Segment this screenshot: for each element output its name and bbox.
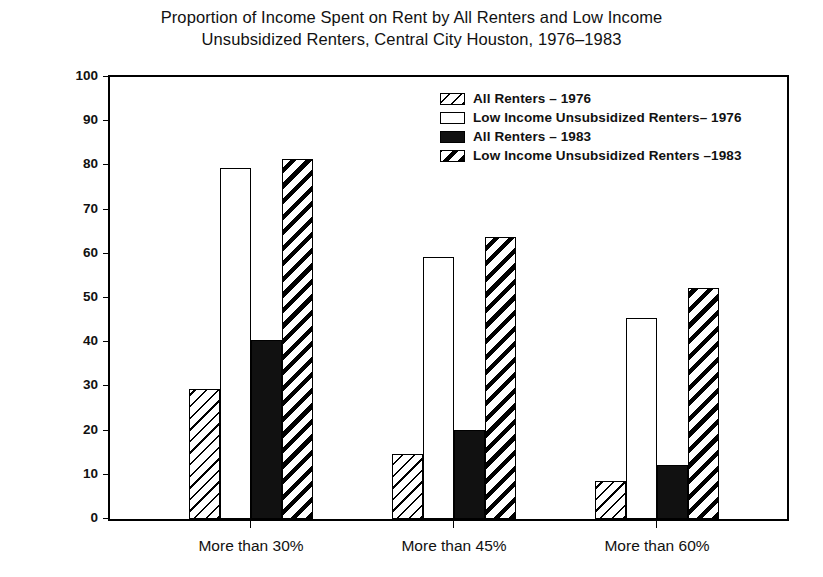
y-tick-mark	[103, 385, 110, 386]
y-tick-mark	[103, 430, 110, 431]
legend-item: All Renters – 1983	[440, 128, 742, 145]
bar	[282, 159, 313, 519]
bar	[251, 340, 282, 519]
legend-item: Low Income Unsubsidized Renters –1983	[440, 147, 742, 164]
x-tick-mark	[250, 519, 251, 528]
y-tick-label: 40	[83, 333, 98, 348]
y-tick-label: 10	[83, 466, 98, 481]
bar	[485, 237, 516, 519]
bar	[657, 465, 688, 519]
legend-label: All Renters – 1983	[473, 129, 591, 144]
y-tick-mark	[103, 253, 110, 254]
bar	[595, 481, 626, 519]
bar	[392, 454, 423, 519]
bar	[688, 288, 719, 519]
legend-swatch-icon	[440, 131, 465, 143]
y-tick-mark	[103, 209, 110, 210]
y-tick-mark	[103, 474, 110, 475]
chart-figure: Proportion of Income Spent on Rent by Al…	[0, 0, 823, 577]
plot-area: 0102030405060708090100 More than 30%More…	[108, 75, 789, 521]
y-tick-label: 100	[75, 68, 98, 83]
y-tick-label: 60	[83, 245, 98, 260]
y-tick-mark	[103, 341, 110, 342]
y-tick-mark	[103, 164, 110, 165]
y-tick-label: 90	[83, 112, 98, 127]
y-tick-mark	[103, 518, 110, 519]
y-tick-label: 80	[83, 156, 98, 171]
legend-item: Low Income Unsubsidized Renters– 1976	[440, 109, 742, 126]
bar	[189, 389, 220, 519]
legend-label: Low Income Unsubsidized Renters– 1976	[473, 110, 742, 125]
bar	[423, 257, 454, 519]
y-tick-label: 20	[83, 422, 98, 437]
y-tick-label: 70	[83, 201, 98, 216]
x-tick-mark	[656, 519, 657, 528]
x-tick-label: More than 45%	[401, 537, 506, 555]
y-tick-mark	[103, 120, 110, 121]
chart-legend: All Renters – 1976Low Income Unsubsidize…	[440, 90, 742, 164]
x-tick-mark	[453, 519, 454, 528]
legend-swatch-icon	[440, 93, 465, 105]
y-tick-mark	[103, 76, 110, 77]
chart-title: Proportion of Income Spent on Rent by Al…	[0, 6, 823, 50]
legend-label: All Renters – 1976	[473, 91, 591, 106]
legend-item: All Renters – 1976	[440, 90, 742, 107]
chart-title-line-2: Unsubsidized Renters, Central City Houst…	[0, 28, 823, 50]
legend-label: Low Income Unsubsidized Renters –1983	[473, 148, 742, 163]
y-tick-label: 0	[90, 510, 98, 525]
bar	[626, 318, 657, 519]
x-tick-label: More than 60%	[604, 537, 709, 555]
y-tick-label: 30	[83, 377, 98, 392]
bar	[220, 168, 251, 519]
x-tick-label: More than 30%	[198, 537, 303, 555]
y-tick-mark	[103, 297, 110, 298]
y-axis-label: Percent of Renters	[0, 250, 3, 379]
legend-swatch-icon	[440, 112, 465, 124]
legend-swatch-icon	[440, 150, 465, 162]
chart-title-line-1: Proportion of Income Spent on Rent by Al…	[161, 8, 663, 26]
y-tick-label: 50	[83, 289, 98, 304]
bar	[454, 430, 485, 519]
